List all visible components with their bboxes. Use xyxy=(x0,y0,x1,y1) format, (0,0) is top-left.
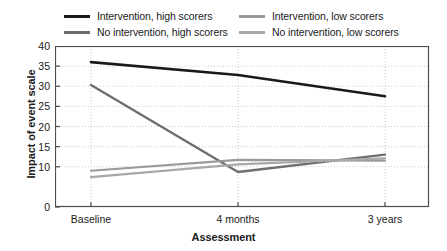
legend-entry-no-intervention-low: No intervention, low scorers xyxy=(239,24,434,40)
legend-label: No intervention, low scorers xyxy=(272,24,399,40)
y-tick-label: 10 xyxy=(28,162,50,172)
chart-legend: Intervention, high scorers Intervention,… xyxy=(64,8,434,40)
y-tick-label: 15 xyxy=(28,142,50,152)
chart-figure: Intervention, high scorers Intervention,… xyxy=(0,0,447,251)
y-tick-label: 40 xyxy=(28,41,50,51)
legend-entry-intervention-high: Intervention, high scorers xyxy=(64,8,239,24)
y-tick-label: 20 xyxy=(28,122,50,132)
legend-swatch-icon xyxy=(239,15,265,18)
legend-swatch-icon xyxy=(239,31,265,34)
legend-swatch-icon xyxy=(64,15,90,18)
legend-row: No intervention, high scorers No interve… xyxy=(64,24,434,40)
legend-label: Intervention, high scorers xyxy=(97,8,212,24)
legend-label: Intervention, low scorers xyxy=(272,8,383,24)
x-tick-label: Baseline xyxy=(51,213,131,225)
legend-entry-no-intervention-high: No intervention, high scorers xyxy=(64,24,239,40)
y-tick-label: 25 xyxy=(28,101,50,111)
x-tick-label: 4 months xyxy=(198,213,278,225)
gridlines xyxy=(55,46,429,207)
legend-entry-intervention-low: Intervention, low scorers xyxy=(239,8,434,24)
y-tick-label: 30 xyxy=(28,81,50,91)
legend-label: No intervention, high scorers xyxy=(97,24,228,40)
legend-row: Intervention, high scorers Intervention,… xyxy=(64,8,434,24)
chart-svg xyxy=(55,46,430,208)
y-tick-label: 35 xyxy=(28,61,50,71)
x-tick-label: 3 years xyxy=(345,213,425,225)
plot-area xyxy=(55,46,430,208)
x-axis-title: Assessment xyxy=(0,231,447,243)
legend-swatch-icon xyxy=(64,31,90,34)
y-tick-label: 0 xyxy=(28,202,50,212)
